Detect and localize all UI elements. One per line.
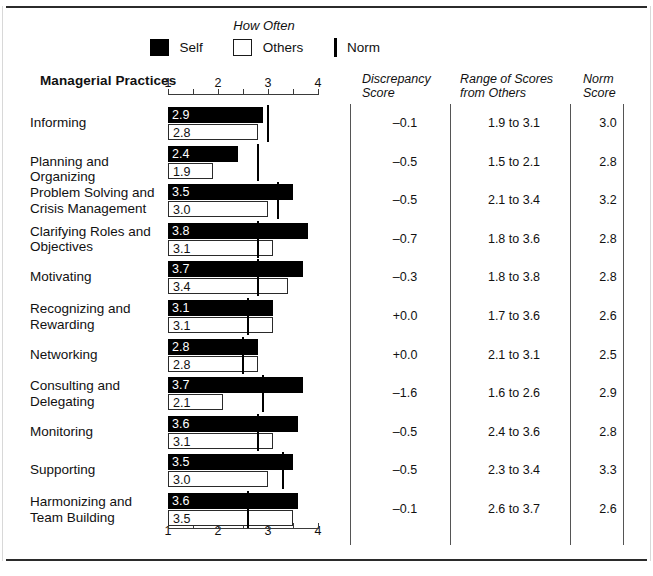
- cell-range-of-scores: 1.8 to 3.8: [455, 270, 573, 284]
- cell-discrepancy-score: –0.5: [362, 425, 448, 439]
- header-range-line2: from Others: [460, 86, 572, 100]
- row-label-line1: Monitoring: [30, 424, 170, 440]
- bar-others-value: 2.8: [173, 357, 190, 373]
- norm-marker: [262, 375, 265, 412]
- bar-others-value: 3.1: [173, 434, 190, 450]
- cell-range-of-scores: 1.6 to 2.6: [455, 386, 573, 400]
- bar-self: 3.6: [168, 493, 298, 509]
- bar-others: 3.1: [168, 317, 273, 333]
- row-label: Consulting andDelegating: [30, 378, 170, 409]
- norm-marker: [257, 259, 260, 296]
- chart-row: Planning and Organizing2.41.9–0.51.5 to …: [0, 146, 653, 180]
- cell-norm-score: 2.6: [580, 309, 636, 323]
- cell-discrepancy-score: –0.3: [362, 270, 448, 284]
- chart-row: Monitoring3.63.1–0.52.4 to 3.62.8: [0, 416, 653, 450]
- row-label: Motivating: [30, 269, 170, 285]
- bar-others: 3.4: [168, 278, 288, 294]
- header-norm-line1: Norm: [583, 72, 643, 86]
- axis-tick-mark: [318, 89, 319, 95]
- bar-self-value: 3.5: [172, 454, 189, 470]
- row-label: Problem Solving andCrisis Management: [30, 185, 170, 216]
- bar-others-value: 3.5: [173, 511, 190, 527]
- norm-marker: [277, 182, 280, 219]
- row-label-line1: Informing: [30, 115, 170, 131]
- axis-tick-mark: [218, 89, 219, 95]
- bar-others: 3.0: [168, 471, 268, 487]
- row-label-line1: Supporting: [30, 462, 170, 478]
- row-label: Planning and Organizing: [30, 154, 170, 185]
- row-label-line1: Recognizing and: [30, 301, 170, 317]
- bar-self-value: 2.4: [172, 146, 189, 162]
- cell-range-of-scores: 2.1 to 3.1: [455, 348, 573, 362]
- cell-norm-score: 3.3: [580, 463, 636, 477]
- header-discrepancy-score: Discrepancy Score: [362, 72, 448, 100]
- cell-range-of-scores: 2.3 to 3.4: [455, 463, 573, 477]
- cell-range-of-scores: 2.1 to 3.4: [455, 193, 573, 207]
- norm-marker: [242, 337, 245, 374]
- norm-marker: [247, 298, 250, 335]
- bar-others-value: 3.4: [173, 279, 190, 295]
- row-label: Informing: [30, 115, 170, 131]
- row-label: Networking: [30, 347, 170, 363]
- row-label-line1: Problem Solving and: [30, 185, 170, 201]
- row-label-line1: Harmonizing and: [30, 494, 170, 510]
- row-label: Monitoring: [30, 424, 170, 440]
- bar-others: 1.9: [168, 163, 213, 179]
- bar-self: 3.7: [168, 261, 303, 277]
- bar-others: 2.8: [168, 356, 258, 372]
- bar-others-value: 3.0: [173, 472, 190, 488]
- header-discrepancy-line2: Score: [362, 86, 448, 100]
- row-label-line1: Clarifying Roles and: [30, 224, 170, 240]
- bar-self-value: 2.9: [172, 107, 189, 123]
- axis-tick-mark: [193, 89, 194, 95]
- bar-self-value: 3.5: [172, 184, 189, 200]
- row-label-line2: Team Building: [30, 510, 170, 526]
- bar-self-value: 3.7: [172, 377, 189, 393]
- bar-self: 2.8: [168, 339, 258, 355]
- cell-discrepancy-score: –0.5: [362, 155, 448, 169]
- cell-norm-score: 2.6: [580, 502, 636, 516]
- bar-others-value: 1.9: [173, 164, 190, 180]
- bar-others: 2.8: [168, 124, 258, 140]
- axis-tick-mark: [268, 89, 269, 95]
- norm-marker: [267, 105, 270, 142]
- row-label-line2: Crisis Management: [30, 201, 170, 217]
- cell-discrepancy-score: +0.0: [362, 309, 448, 323]
- row-label-line1: Networking: [30, 347, 170, 363]
- cell-discrepancy-score: –0.5: [362, 193, 448, 207]
- axis-tick-label-4: 4: [308, 76, 328, 90]
- chart-row: Supporting3.53.0–0.52.3 to 3.43.3: [0, 454, 653, 488]
- cell-range-of-scores: 2.4 to 3.6: [455, 425, 573, 439]
- bar-self-value: 3.8: [172, 223, 189, 239]
- row-label-line2: Objectives: [30, 239, 170, 255]
- chart-row: Harmonizing andTeam Building3.63.5–0.12.…: [0, 493, 653, 527]
- bottom-rule: [6, 559, 647, 561]
- norm-swatch-icon: [334, 38, 337, 57]
- header-norm-score: Norm Score: [583, 72, 643, 100]
- axis-tick-label-3: 3: [258, 76, 278, 90]
- cell-norm-score: 3.2: [580, 193, 636, 207]
- axis-tick-mark: [293, 89, 294, 95]
- chart-row: Consulting andDelegating3.72.1–1.61.6 to…: [0, 377, 653, 411]
- row-label-line1: Motivating: [30, 269, 170, 285]
- bar-self-value: 3.7: [172, 261, 189, 277]
- self-swatch-icon: [150, 39, 169, 56]
- norm-marker: [257, 221, 260, 258]
- header-discrepancy-line1: Discrepancy: [362, 72, 448, 86]
- cell-norm-score: 2.8: [580, 425, 636, 439]
- header-range-of-scores: Range of Scores from Others: [460, 72, 572, 100]
- row-label: Supporting: [30, 462, 170, 478]
- legend-item-norm: Norm: [334, 38, 380, 57]
- cell-discrepancy-score: –0.7: [362, 232, 448, 246]
- legend-item-self: Self: [150, 38, 203, 56]
- chart-row: Informing2.92.8–0.11.9 to 3.13.0: [0, 107, 653, 141]
- cell-norm-score: 2.8: [580, 155, 636, 169]
- bar-self-value: 3.1: [172, 300, 189, 316]
- legend-label-self: Self: [173, 40, 202, 55]
- row-label-line2: Rewarding: [30, 317, 170, 333]
- chart-row: Recognizing andRewarding3.13.1+0.01.7 to…: [0, 300, 653, 334]
- axis-tick-label-1: 1: [158, 76, 178, 90]
- legend-title: How Often: [184, 18, 344, 33]
- norm-marker: [247, 491, 250, 528]
- bar-self: 3.8: [168, 223, 308, 239]
